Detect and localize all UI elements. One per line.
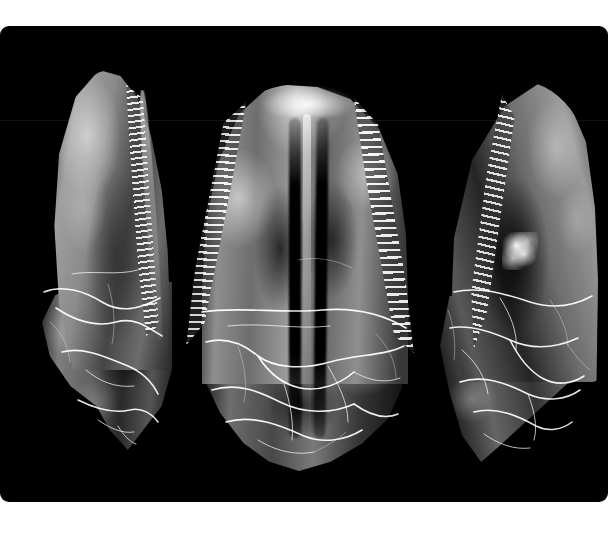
tooth-middle-body [198,84,412,474]
tooth-specimen-left [42,70,182,450]
tooth-middle-central-ridge [303,114,311,444]
tooth-middle-apex-highlight [262,86,354,116]
tooth-specimen-right [440,82,600,462]
tooth-specimen-middle [198,84,412,474]
tooth-left-body [42,70,182,450]
tooth-middle-groove-left [289,118,301,438]
tooth-right-body [440,82,600,462]
photograph-plate [0,26,608,502]
photo-canvas [0,0,608,546]
mineral-speck [502,232,538,270]
